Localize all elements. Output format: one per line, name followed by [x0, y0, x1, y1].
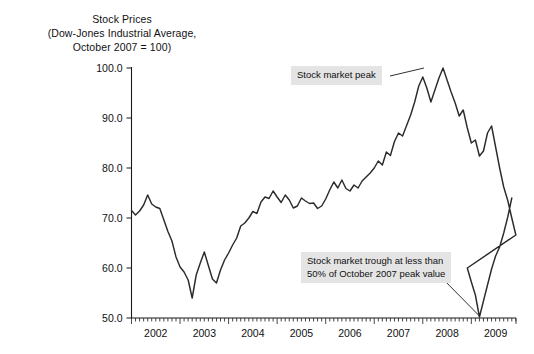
svg-text:2003: 2003	[193, 327, 217, 339]
chart-figure: Stock Prices (Dow-Jones Industrial Avera…	[0, 0, 534, 354]
svg-text:2006: 2006	[338, 327, 362, 339]
svg-text:100.0: 100.0	[96, 62, 122, 74]
x-axis-labels: 20022003200420052006200720082009	[144, 327, 507, 339]
svg-text:2008: 2008	[435, 327, 459, 339]
svg-text:2005: 2005	[290, 327, 314, 339]
annotation-trough: Stock market trough at less than 50% of …	[301, 252, 451, 283]
peak-leader-line	[390, 68, 424, 76]
annotation-trough-line-1: Stock market trough at less than	[307, 255, 445, 268]
x-axis-minor-ticks	[132, 318, 517, 324]
svg-text:50.0: 50.0	[102, 312, 123, 324]
annotation-peak: Stock market peak	[291, 66, 382, 85]
svg-text:2009: 2009	[484, 327, 508, 339]
svg-text:2007: 2007	[387, 327, 411, 339]
svg-text:90.0: 90.0	[102, 112, 123, 124]
y-axis-ticks	[127, 68, 132, 318]
svg-text:60.0: 60.0	[102, 262, 123, 274]
y-axis-labels: 50.060.070.080.090.0100.0	[96, 62, 122, 324]
annotation-peak-text: Stock market peak	[297, 69, 376, 80]
svg-text:80.0: 80.0	[102, 162, 123, 174]
svg-text:2002: 2002	[144, 327, 168, 339]
svg-text:70.0: 70.0	[102, 212, 123, 224]
annotation-trough-line-2: 50% of October 2007 peak value	[307, 268, 445, 281]
chart-plot-area: 50.060.070.080.090.0100.0 20022003200420…	[0, 0, 534, 354]
svg-text:2004: 2004	[241, 327, 265, 339]
